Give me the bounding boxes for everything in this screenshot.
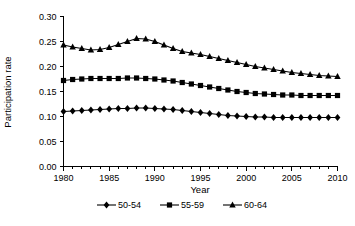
diamond-marker — [188, 108, 194, 115]
square-marker — [180, 80, 185, 85]
diamond-marker — [243, 113, 249, 120]
square-marker — [198, 83, 203, 88]
diamond-marker — [325, 114, 331, 121]
y-tick-label: 0.20 — [39, 62, 57, 72]
diamond-marker — [170, 106, 176, 113]
square-marker — [262, 91, 267, 96]
diamond-marker — [97, 106, 103, 113]
diamond-marker — [106, 106, 112, 113]
square-marker — [225, 87, 230, 92]
y-axis-tick-labels: 0.000.050.100.150.200.250.30 — [39, 12, 57, 172]
square-marker — [161, 77, 166, 82]
square-marker — [143, 76, 148, 81]
x-tick-label: 1985 — [99, 173, 119, 183]
square-marker — [317, 93, 322, 98]
square-marker — [79, 76, 84, 81]
square-marker — [61, 78, 66, 83]
diamond-marker — [280, 114, 286, 121]
y-tick-label: 0.10 — [39, 112, 57, 122]
square-marker — [107, 76, 112, 81]
diamond-marker — [143, 105, 149, 112]
x-tick-label: 2010 — [327, 173, 347, 183]
series-55-59 — [61, 75, 340, 98]
legend-item-55-59: 55-59 — [160, 200, 204, 210]
diamond-marker — [125, 105, 131, 112]
square-marker — [116, 76, 121, 81]
legend-label: 60-64 — [244, 200, 267, 210]
square-marker — [134, 75, 139, 80]
x-axis-tick-labels: 1980198519901995200020052010 — [53, 173, 347, 183]
legend-item-60-64: 60-64 — [223, 200, 267, 210]
square-marker — [167, 202, 172, 207]
y-tick-label: 0.15 — [39, 87, 57, 97]
diamond-marker — [289, 114, 295, 121]
x-axis-title: Year — [190, 184, 209, 195]
y-tick-label: 0.00 — [39, 162, 57, 172]
legend-item-50-54: 50-54 — [97, 200, 141, 210]
legend-label: 55-59 — [181, 200, 204, 210]
triangle-marker — [60, 42, 66, 48]
square-marker — [88, 76, 93, 81]
diamond-marker — [179, 107, 185, 114]
square-marker — [216, 86, 221, 91]
y-tick-label: 0.30 — [39, 12, 57, 22]
y-tick-label: 0.25 — [39, 37, 57, 47]
square-marker — [70, 77, 75, 82]
diamond-marker — [134, 105, 140, 112]
x-tick-label: 2000 — [236, 173, 256, 183]
x-tick-label: 1995 — [190, 173, 210, 183]
diamond-marker — [234, 113, 240, 120]
diamond-marker — [216, 111, 222, 118]
diamond-marker — [79, 107, 85, 114]
square-marker — [271, 92, 276, 97]
square-marker — [280, 92, 285, 97]
diamond-marker — [70, 108, 76, 115]
data-series-group — [60, 35, 340, 121]
series-line-60-64 — [64, 39, 338, 77]
diamond-marker — [252, 114, 258, 121]
x-tick-label: 1990 — [145, 173, 165, 183]
diamond-marker — [307, 114, 313, 121]
diamond-marker — [161, 106, 167, 113]
chart-figure: 0.000.050.100.150.200.250.30 19801985199… — [0, 0, 355, 226]
diamond-marker — [335, 114, 341, 121]
y-tick-label: 0.05 — [39, 137, 57, 147]
square-marker — [244, 90, 249, 95]
diamond-marker — [316, 114, 322, 121]
diamond-marker — [262, 114, 268, 121]
diamond-marker — [225, 112, 231, 119]
diamond-marker — [198, 109, 204, 116]
square-marker — [326, 93, 331, 98]
square-marker — [125, 75, 130, 80]
diamond-marker — [271, 114, 277, 121]
diamond-marker — [115, 105, 121, 112]
axis-tick-marks — [60, 17, 338, 171]
square-marker — [308, 93, 313, 98]
x-tick-label: 1980 — [53, 173, 73, 183]
square-marker — [152, 76, 157, 81]
square-marker — [335, 93, 340, 98]
diamond-marker — [152, 105, 158, 112]
x-tick-label: 2005 — [282, 173, 302, 183]
square-marker — [298, 93, 303, 98]
square-marker — [207, 84, 212, 89]
square-marker — [189, 81, 194, 86]
square-marker — [289, 92, 294, 97]
series-50-54 — [61, 105, 341, 121]
square-marker — [97, 76, 102, 81]
diamond-marker — [88, 107, 94, 114]
series-60-64 — [60, 35, 340, 79]
square-marker — [253, 91, 258, 96]
legend-label: 50-54 — [118, 200, 141, 210]
y-axis-title: Participation rate — [2, 56, 13, 127]
diamond-marker — [298, 114, 304, 121]
square-marker — [234, 89, 239, 94]
diamond-marker — [207, 110, 213, 117]
participation-rate-line-chart: 0.000.050.100.150.200.250.30 19801985199… — [0, 0, 355, 226]
diamond-marker — [104, 202, 110, 209]
chart-legend: 50-5455-5960-64 — [97, 200, 267, 210]
square-marker — [171, 78, 176, 83]
diamond-marker — [61, 108, 67, 115]
